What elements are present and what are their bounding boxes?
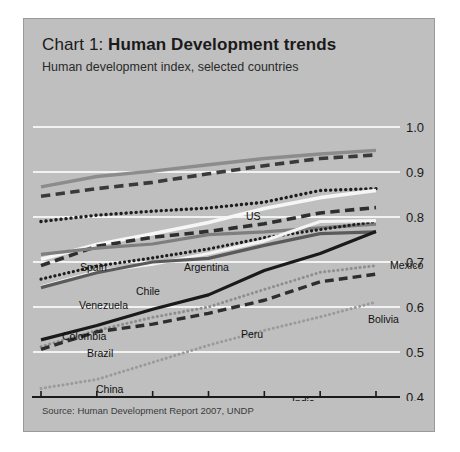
title-strong: Human Development trends xyxy=(108,35,336,54)
series-line-us xyxy=(41,150,376,186)
chart-page: Chart 1: Human Development trends Human … xyxy=(0,0,460,452)
series-label-brazil: Brazil xyxy=(87,347,113,359)
series-label-spain: Spain xyxy=(80,261,107,273)
series-label-chile: Chile xyxy=(136,285,160,297)
y-axis-tick-label: 0.4 xyxy=(406,390,424,401)
series-label-bolivia: Bolivia xyxy=(368,313,399,325)
series-label-china: China xyxy=(96,383,124,395)
series-label-colombia: Colombia xyxy=(62,330,107,342)
series-label-india: India xyxy=(292,396,315,401)
y-axis-tick-label: 0.5 xyxy=(406,345,424,360)
y-axis-tick-label: 0.8 xyxy=(406,210,424,225)
line-chart: 0.40.50.60.70.80.91.0 197519801985199019… xyxy=(24,81,434,401)
series-label-argentina: Argentina xyxy=(184,261,229,273)
chart-panel: Chart 1: Human Development trends Human … xyxy=(23,18,435,432)
page-title: Chart 1: Human Development trends xyxy=(42,35,336,55)
series-label-us: US xyxy=(246,210,261,222)
y-axis-tick-label: 1.0 xyxy=(406,120,424,135)
chart-source: Source: Human Development Report 2007, U… xyxy=(42,405,254,416)
series-label-mexico: Mexico xyxy=(390,259,423,271)
title-lead: Chart 1: xyxy=(42,35,108,54)
chart-subtitle: Human development index, selected countr… xyxy=(42,60,298,74)
y-axis-tick-label: 0.6 xyxy=(406,300,424,315)
series-label-venezuela: Venezuela xyxy=(79,299,128,311)
chart-canvas: 0.40.50.60.70.80.91.0 197519801985199019… xyxy=(24,81,434,401)
axis-group xyxy=(32,391,400,397)
series-line-peru xyxy=(41,232,376,288)
series-label-peru: Peru xyxy=(241,328,263,340)
gridlines xyxy=(33,127,400,352)
series-labels: USSpainArgentinaMexicoChileVenezuelaColo… xyxy=(62,210,423,401)
series-line-brazil xyxy=(41,221,376,287)
y-axis-tick-label: 0.9 xyxy=(406,165,424,180)
